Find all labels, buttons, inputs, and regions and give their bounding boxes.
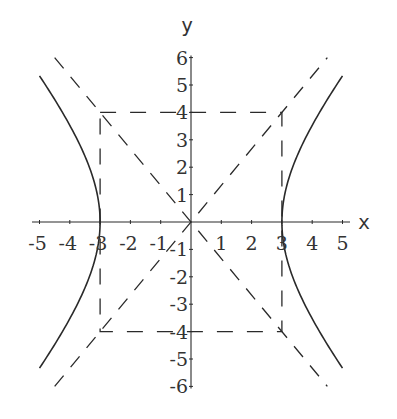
y-tick-label: 5	[176, 74, 188, 96]
hyperbola-plot: -5-4-3-2-112345654321-1-2-3-4-5-6xy	[0, 0, 397, 419]
y-axis-label: y	[181, 13, 193, 37]
x-tick-label: 2	[246, 232, 258, 254]
x-tick-label: -2	[119, 232, 138, 254]
x-tick-label: -5	[28, 232, 47, 254]
y-tick-label: -6	[169, 375, 188, 397]
x-tick-label: -4	[59, 232, 78, 254]
y-tick-label: -4	[169, 321, 188, 343]
x-tick-label: -1	[149, 232, 168, 254]
y-tick-label: 2	[176, 156, 188, 178]
y-tick-label: -5	[169, 348, 188, 370]
x-tick-label: 1	[215, 232, 227, 254]
plot-labels: -5-4-3-2-112345654321-1-2-3-4-5-6xy	[28, 13, 370, 397]
x-axis-label: x	[358, 210, 370, 234]
plot-axes	[32, 56, 350, 389]
y-tick-label: -3	[169, 293, 188, 315]
x-tick-label: -3	[89, 232, 108, 254]
x-tick-label: 4	[306, 232, 318, 254]
y-tick-label: 1	[176, 184, 188, 206]
y-tick-label: -2	[169, 266, 188, 288]
x-tick-label: 3	[276, 232, 288, 254]
y-tick-label: 6	[176, 47, 188, 69]
y-tick-label: 4	[176, 101, 188, 123]
x-tick-label: 5	[336, 232, 348, 254]
y-tick-label: -1	[169, 238, 188, 260]
y-tick-label: 3	[176, 129, 188, 151]
